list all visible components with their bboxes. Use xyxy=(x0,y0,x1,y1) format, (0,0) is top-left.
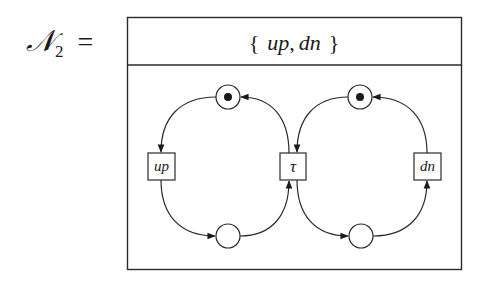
net-box-border xyxy=(128,18,462,270)
place-circle xyxy=(216,224,240,248)
place-bottom-left xyxy=(216,224,240,248)
place-top-right xyxy=(348,85,372,109)
alphabet-separator: , xyxy=(289,30,295,55)
petri-net-diagram: {up,dn} up τ dn xyxy=(0,0,481,284)
arc-pBR-to-dn xyxy=(373,181,427,236)
alphabet-action-up: up xyxy=(267,30,289,55)
arc-pTL-to-up xyxy=(161,97,216,152)
arc-pBL-to-tau xyxy=(240,181,289,236)
transition-label-tau: τ xyxy=(290,157,297,176)
transition-tau: τ xyxy=(280,153,306,180)
place-circle xyxy=(349,224,373,248)
transition-label-dn: dn xyxy=(420,158,435,174)
arc-up-to-pBL xyxy=(161,180,215,236)
arc-tau-to-pBR xyxy=(297,180,348,236)
arc-dn-to-pTR xyxy=(373,97,427,153)
arc-pTR-to-tau xyxy=(297,97,348,152)
arc-tau-to-pTL xyxy=(241,97,289,153)
alphabet-action-dn: dn xyxy=(299,30,321,55)
alphabet-header: {up,dn} xyxy=(249,30,340,55)
transition-up: up xyxy=(148,153,175,180)
token-icon xyxy=(356,93,364,101)
token-icon xyxy=(224,93,232,101)
brace-open: { xyxy=(249,30,260,55)
net-box xyxy=(128,18,462,270)
transition-dn: dn xyxy=(414,153,441,180)
brace-close: } xyxy=(329,30,340,55)
place-top-left xyxy=(216,85,240,109)
transition-label-up: up xyxy=(154,158,170,174)
place-bottom-right xyxy=(349,224,373,248)
